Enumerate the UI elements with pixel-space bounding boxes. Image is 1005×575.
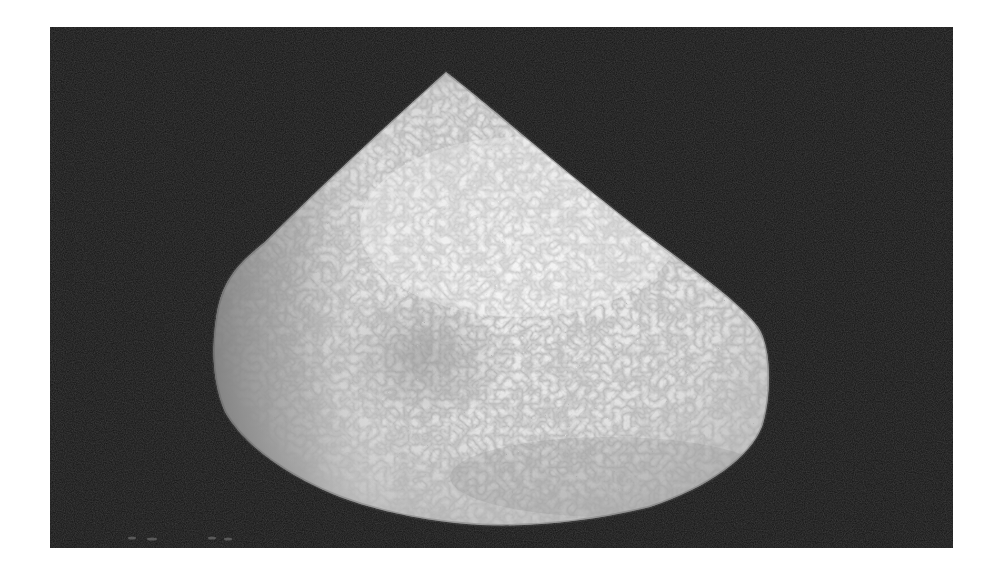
specimen-photo: [50, 27, 953, 548]
page: [0, 0, 1005, 575]
photograph: [50, 27, 953, 548]
